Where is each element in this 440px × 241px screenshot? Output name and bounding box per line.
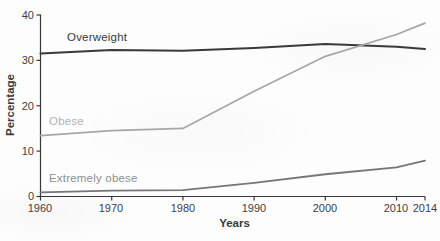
x-tick-label-1990: 1990 [234, 202, 274, 214]
x-tick-label-1960: 1960 [20, 202, 60, 214]
series-label-obese: Obese [49, 115, 84, 128]
x-tick-label-2000: 2000 [305, 202, 345, 214]
x-axis-title: Years [192, 217, 277, 229]
y-axis-title: Percentage [4, 55, 18, 155]
x-tick-label-1980: 1980 [163, 202, 203, 214]
series-label-overweight: Overweight [67, 31, 127, 44]
obesity-trends-figure: 40 30 20 10 0 1960 1970 1980 1990 2000 2… [0, 0, 440, 241]
x-tick-label-2014: 2014 [405, 202, 440, 214]
y-tick-label-40: 40 [8, 9, 34, 21]
y-tick-label-0: 0 [8, 190, 34, 202]
series-line-overweight [41, 44, 426, 54]
x-tick-label-1970: 1970 [91, 202, 131, 214]
series-label-extremely-obese: Extremely obese [49, 172, 138, 185]
